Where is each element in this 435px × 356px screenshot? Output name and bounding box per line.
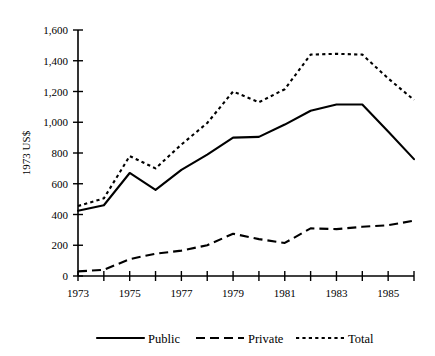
y-tick-label: 800 [52,147,69,159]
y-tick-label: 200 [52,239,69,251]
x-tick-label: 1981 [274,287,296,299]
series-line-total [78,54,414,206]
chart-container: 02004006008001,0001,2001,4001,600 197319… [0,0,435,356]
y-tick-label: 1,200 [43,86,68,98]
legend-label-public: Public [148,332,180,346]
chart-legend: PublicPrivateTotal [97,332,374,346]
x-tick-label: 1979 [222,287,245,299]
y-tick-label: 1,400 [43,55,68,67]
x-axis-tick-labels: 1973197519771979198119831985 [67,287,400,299]
y-tick-label: 0 [63,270,69,282]
y-tick-label: 1,000 [43,116,68,128]
x-tick-label: 1985 [377,287,400,299]
y-tick-label: 600 [52,178,69,190]
line-chart: 02004006008001,0001,2001,4001,600 197319… [0,0,435,356]
series-line-public [78,105,414,211]
x-tick-label: 1973 [67,287,90,299]
y-tick-label: 400 [52,209,69,221]
x-tick-label: 1983 [325,287,348,299]
legend-label-private: Private [248,332,284,346]
y-axis-title: 1973 US$ [20,130,32,175]
series-line-private [78,221,414,272]
y-axis-tick-labels: 02004006008001,0001,2001,4001,600 [43,24,68,282]
legend-label-total: Total [348,332,374,346]
y-tick-label: 1,600 [43,24,68,36]
x-tick-label: 1975 [119,287,142,299]
x-tick-label: 1977 [170,287,193,299]
